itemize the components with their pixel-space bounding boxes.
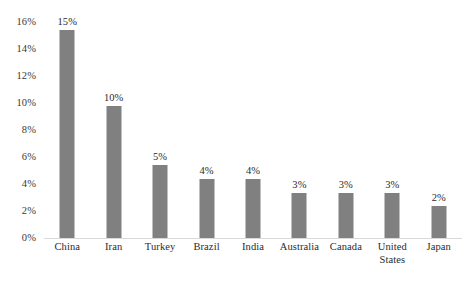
x-axis-category-label: Iran: [90, 241, 136, 254]
bar: [60, 30, 75, 238]
bar-value-label: 10%: [104, 92, 124, 103]
y-axis-tick-label: 0%: [22, 233, 36, 243]
bar-value-label: 15%: [57, 16, 77, 27]
bar: [245, 179, 260, 238]
bar: [431, 206, 446, 238]
bar-value-label: 3%: [292, 179, 306, 190]
x-axis-category-label: India: [230, 241, 276, 254]
x-axis-category-label: China: [44, 241, 90, 254]
bar-value-label: 3%: [385, 179, 399, 190]
x-axis-category-label: Japan: [416, 241, 462, 254]
y-axis-tick-label: 14%: [16, 44, 36, 54]
bar: [385, 193, 400, 238]
bar-group: 15%: [44, 22, 90, 238]
y-axis-tick-label: 4%: [22, 179, 36, 189]
bar-value-label: 5%: [153, 151, 167, 162]
y-axis-tick-label: 6%: [22, 152, 36, 162]
y-axis-tick-label: 10%: [16, 98, 36, 108]
bar-value-label: 4%: [246, 165, 260, 176]
bar: [292, 193, 307, 238]
bar-group: 3%: [369, 22, 415, 238]
y-axis-tick-label: 2%: [22, 206, 36, 216]
y-axis-tick-label: 12%: [16, 71, 36, 81]
bar-value-label: 2%: [432, 192, 446, 203]
y-axis-tick-label: 16%: [16, 17, 36, 27]
y-axis: 0%2%4%6%8%10%12%14%16%: [0, 0, 40, 283]
bar-group: 4%: [230, 22, 276, 238]
bar-group: 5%: [137, 22, 183, 238]
bar: [153, 165, 168, 238]
bar-series: 15%10%5%4%4%3%3%3%2%: [44, 22, 462, 238]
x-axis: ChinaIranTurkeyBrazilIndiaAustraliaCanad…: [44, 241, 462, 281]
bar-group: 3%: [276, 22, 322, 238]
bar-group: 10%: [90, 22, 136, 238]
x-axis-baseline: [44, 238, 462, 239]
bar: [199, 179, 214, 238]
x-axis-category-label: Turkey: [137, 241, 183, 254]
x-axis-category-label: United States: [369, 241, 415, 266]
bar-chart: 0%2%4%6%8%10%12%14%16% 15%10%5%4%4%3%3%3…: [0, 0, 466, 283]
bar: [106, 106, 121, 238]
y-axis-tick-label: 8%: [22, 125, 36, 135]
bar-group: 3%: [323, 22, 369, 238]
x-axis-category-label: Australia: [276, 241, 322, 254]
x-axis-category-label: Canada: [323, 241, 369, 254]
bar: [338, 193, 353, 238]
bar-value-label: 3%: [339, 179, 353, 190]
bar-group: 2%: [416, 22, 462, 238]
bar-group: 4%: [183, 22, 229, 238]
x-axis-category-label: Brazil: [183, 241, 229, 254]
bar-value-label: 4%: [199, 165, 213, 176]
